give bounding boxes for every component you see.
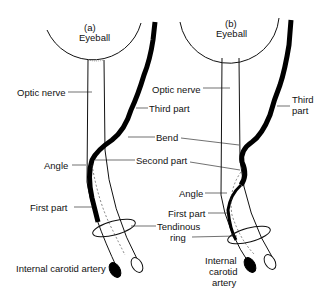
tendinous-ring-label-1: Tendinous [157,221,200,232]
angle-a-label: Angle [44,160,68,171]
eyeball-b-label: Eyeball [216,28,247,39]
third-part-b-label-2: part [292,105,308,116]
eyeball-a-label: Eyeball [79,32,110,43]
first-part-b-label: First part [168,208,205,219]
angle-b-label: Angle [179,188,203,199]
optic-nerve-b-label: Optic nerve [152,84,201,95]
tendinous-ring-label-2: ring [170,232,186,243]
second-part-label: Second part [136,155,187,166]
third-part-a-label: Third part [149,103,190,114]
third-part-b-label-1: Third [292,94,314,105]
ica-b-label-1: Internal [205,255,237,266]
diagram-artwork [0,0,326,294]
optic-nerve-a-label: Optic nerve [17,87,66,98]
ica-a-label: Internal carotid artery [16,263,106,274]
ica-b-label-2: carotid [209,266,238,277]
first-part-a-label: First part [30,202,67,213]
ica-b-label-3: artery [212,277,236,288]
bend-label: Bend [156,132,178,143]
